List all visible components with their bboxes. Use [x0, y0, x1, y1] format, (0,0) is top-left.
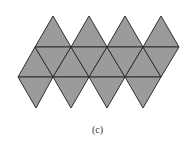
net-triangle [107, 16, 143, 47]
net-triangle [89, 77, 125, 108]
icosahedron-net-diagram [0, 0, 195, 143]
net-triangle [143, 16, 179, 47]
net-triangle [53, 77, 89, 108]
net-triangle [18, 77, 53, 108]
net-triangle [35, 16, 71, 47]
net-triangles [18, 16, 179, 108]
figure-caption: (c) [0, 124, 195, 135]
net-triangle [71, 16, 107, 47]
net-triangle [125, 77, 161, 108]
